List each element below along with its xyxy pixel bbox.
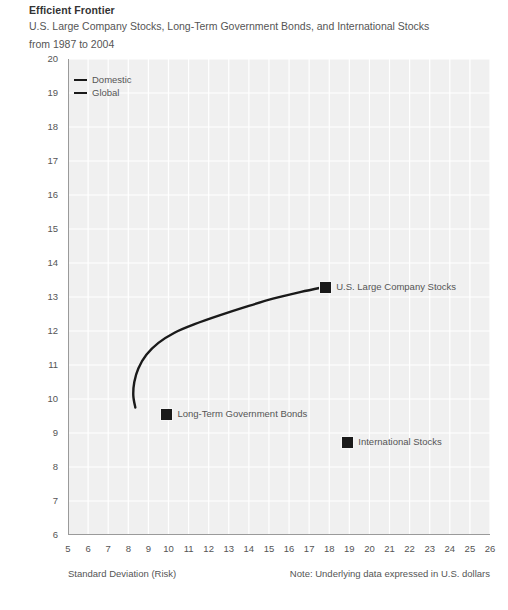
y-tick-label: 14 [32,258,58,267]
y-tick-label: 13 [32,292,58,301]
y-tick-label: 20 [32,54,58,63]
footnote: Note: Underlying data expressed in U.S. … [290,568,490,579]
legend: Domestic Global [74,73,132,99]
chart-page: Efficient Frontier U.S. Large Company St… [0,0,508,610]
y-tick-label: 11 [32,360,58,369]
legend-label: Domestic [92,74,132,85]
data-marker [160,408,173,421]
data-marker-label: Long-Term Government Bonds [177,408,307,419]
x-axis-title: Standard Deviation (Risk) [68,568,176,579]
y-tick-label: 6 [32,530,58,539]
page-subtitle: U.S. Large Company Stocks, Long-Term Gov… [29,20,429,32]
y-tick-label: 8 [32,462,58,471]
y-tick-label: 18 [32,122,58,131]
y-tick-label: 19 [32,88,58,97]
y-tick-label: 15 [32,224,58,233]
data-marker-label: International Stocks [358,436,441,447]
data-marker-label: U.S. Large Company Stocks [336,281,456,292]
legend-item-domestic: Domestic [74,73,132,86]
plot-area: Domestic Global U.S. Large Company Stock… [68,59,490,535]
y-tick-label: 9 [32,428,58,437]
page-title: Efficient Frontier [29,4,115,16]
legend-item-global: Global [74,86,132,99]
page-period: from 1987 to 2004 [29,38,114,50]
legend-label: Global [92,87,119,98]
y-tick-label: 7 [32,496,58,505]
y-tick-label: 16 [32,190,58,199]
plot-canvas [68,59,490,535]
y-tick-label: 10 [32,394,58,403]
legend-line-icon [74,92,87,94]
x-tick-label: 26 [478,543,502,554]
y-tick-label: 12 [32,326,58,335]
y-tick-label: 17 [32,156,58,165]
data-marker [341,436,354,449]
data-marker [319,281,332,294]
legend-line-icon [74,79,87,81]
